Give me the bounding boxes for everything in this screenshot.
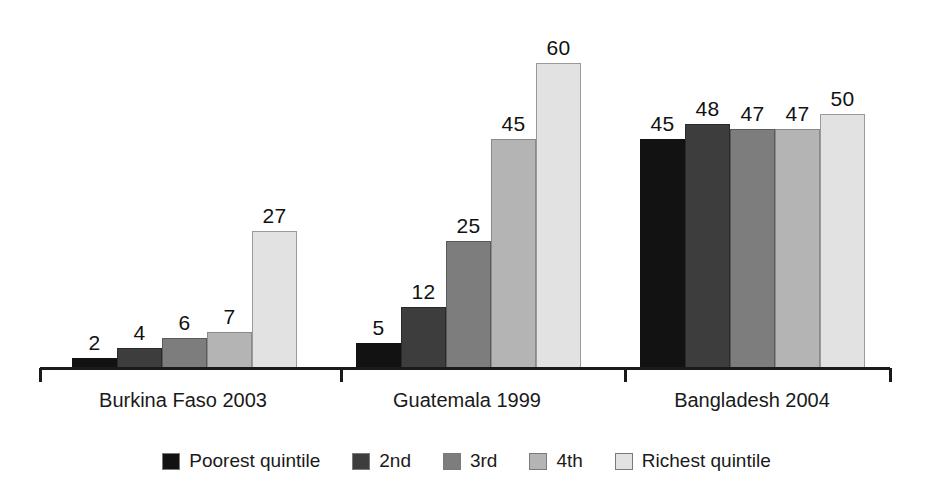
bar-rect bbox=[72, 358, 117, 368]
bar-value-label: 6 bbox=[179, 312, 191, 333]
bar-chart: 2 4 6 7 27 bbox=[0, 0, 933, 501]
bar-value-label: 50 bbox=[831, 88, 855, 109]
bar-bangladesh-poorest-quintile[interactable]: 45 bbox=[640, 0, 685, 368]
legend-swatch-icon bbox=[615, 453, 633, 470]
bar-value-label: 25 bbox=[457, 215, 481, 236]
bar-guatemala-poorest-quintile[interactable]: 5 bbox=[356, 0, 401, 368]
bar-rect bbox=[356, 343, 401, 368]
bar-value-label: 48 bbox=[696, 98, 720, 119]
bar-value-label: 47 bbox=[786, 103, 810, 124]
bar-rect bbox=[491, 139, 536, 368]
category-label-burkina-faso: Burkina Faso 2003 bbox=[99, 386, 267, 414]
bar-burkina-faso-poorest-quintile[interactable]: 2 bbox=[72, 0, 117, 368]
bar-value-label: 45 bbox=[502, 113, 526, 134]
bar-rect bbox=[775, 129, 820, 368]
legend-item-2nd[interactable]: 2nd bbox=[352, 450, 411, 472]
plot-area: 2 4 6 7 27 bbox=[0, 0, 933, 368]
legend-swatch-icon bbox=[162, 453, 180, 470]
bar-rect bbox=[252, 231, 297, 368]
legend-swatch-icon bbox=[443, 453, 461, 470]
category-label-guatemala: Guatemala 1999 bbox=[393, 386, 541, 414]
legend-label: Poorest quintile bbox=[189, 450, 320, 472]
bar-rect bbox=[117, 348, 162, 368]
legend-swatch-icon bbox=[352, 453, 370, 470]
legend-item-3rd[interactable]: 3rd bbox=[443, 450, 497, 472]
bar-rect bbox=[640, 139, 685, 368]
bar-group-bars: 5 12 25 45 60 bbox=[356, 0, 581, 368]
bar-rect bbox=[207, 332, 252, 368]
bar-bangladesh-richest-quintile[interactable]: 50 bbox=[820, 0, 865, 368]
bar-rect bbox=[401, 307, 446, 368]
bar-value-label: 4 bbox=[134, 322, 146, 343]
legend-item-4th[interactable]: 4th bbox=[529, 450, 582, 472]
bar-value-label: 27 bbox=[263, 205, 287, 226]
bar-guatemala-2nd[interactable]: 12 bbox=[401, 0, 446, 368]
legend-label: 2nd bbox=[379, 450, 411, 472]
bar-bangladesh-3rd[interactable]: 47 bbox=[730, 0, 775, 368]
bar-value-label: 7 bbox=[224, 306, 236, 327]
bar-burkina-faso-4th[interactable]: 7 bbox=[207, 0, 252, 368]
legend-swatch-icon bbox=[529, 453, 547, 470]
bar-burkina-faso-richest-quintile[interactable]: 27 bbox=[252, 0, 297, 368]
bar-guatemala-3rd[interactable]: 25 bbox=[446, 0, 491, 368]
bar-group-bars: 2 4 6 7 27 bbox=[72, 0, 297, 368]
legend-item-poorest-quintile[interactable]: Poorest quintile bbox=[162, 450, 320, 472]
bar-value-label: 60 bbox=[547, 37, 571, 58]
bar-rect bbox=[730, 129, 775, 368]
legend: Poorest quintile 2nd 3rd 4th Richest qui… bbox=[0, 446, 933, 476]
bar-value-label: 47 bbox=[741, 103, 765, 124]
bar-guatemala-richest-quintile[interactable]: 60 bbox=[536, 0, 581, 368]
bar-group-bars: 45 48 47 47 50 bbox=[640, 0, 865, 368]
category-label-bangladesh: Bangladesh 2004 bbox=[674, 386, 830, 414]
legend-label: 3rd bbox=[470, 450, 497, 472]
bar-value-label: 5 bbox=[373, 317, 385, 338]
bar-burkina-faso-2nd[interactable]: 4 bbox=[117, 0, 162, 368]
bar-value-label: 45 bbox=[651, 113, 675, 134]
bar-bangladesh-4th[interactable]: 47 bbox=[775, 0, 820, 368]
legend-label: 4th bbox=[556, 450, 582, 472]
bar-burkina-faso-3rd[interactable]: 6 bbox=[162, 0, 207, 368]
bar-rect bbox=[820, 114, 865, 368]
bar-rect bbox=[685, 124, 730, 368]
bar-value-label: 12 bbox=[412, 281, 436, 302]
bar-rect bbox=[446, 241, 491, 368]
legend-label: Richest quintile bbox=[642, 450, 771, 472]
category-axis-labels: Burkina Faso 2003 Guatemala 1999 Banglad… bbox=[0, 386, 933, 420]
bar-bangladesh-2nd[interactable]: 48 bbox=[685, 0, 730, 368]
bar-guatemala-4th[interactable]: 45 bbox=[491, 0, 536, 368]
bar-rect bbox=[162, 338, 207, 368]
legend-item-richest-quintile[interactable]: Richest quintile bbox=[615, 450, 771, 472]
bar-rect bbox=[536, 63, 581, 368]
bar-value-label: 2 bbox=[89, 332, 101, 353]
